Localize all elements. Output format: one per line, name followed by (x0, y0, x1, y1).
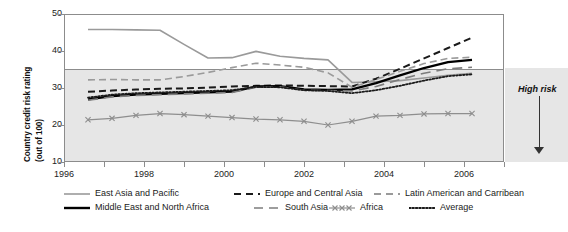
legend-label: Middle East and North Africa (95, 203, 209, 212)
legend-item-east-asia-and-pacific[interactable]: East Asia and Pacific (64, 186, 179, 201)
legend-item-europe-and-central-asia[interactable]: Europe and Central Asia (234, 186, 363, 201)
legend-swatch-icon (234, 189, 260, 199)
legend-swatch-icon (374, 189, 400, 199)
legend-label: Average (440, 203, 473, 212)
legend-item-latin-american-and-carribean[interactable]: Latin American and Carribean (374, 186, 524, 201)
legend-item-middle-east-and-north-africa[interactable]: Middle East and North Africa (64, 200, 209, 215)
chart-legend: East Asia and PacificEurope and Central … (64, 186, 534, 220)
high-risk-arrow-head (534, 147, 544, 154)
series-line-east-asia-and-pacific (88, 30, 472, 83)
high-risk-label: High risk (518, 84, 557, 94)
series-line-south-asia (88, 67, 472, 100)
high-risk-arrow-line (539, 96, 540, 148)
legend-swatch-icon (254, 203, 280, 213)
legend-row-1: East Asia and PacificEurope and Central … (64, 186, 534, 201)
legend-swatch-icon (409, 203, 435, 213)
legend-label: Europe and Central Asia (265, 189, 363, 198)
legend-item-south-asia[interactable]: South Asia (254, 200, 328, 215)
chart-root: Country credit risk rating (out of 100) … (0, 0, 568, 232)
legend-label: Africa (360, 203, 383, 212)
series-markers-africa (85, 111, 474, 128)
legend-item-average[interactable]: Average (409, 200, 473, 215)
legend-swatch-icon (64, 189, 90, 199)
legend-row-2: Middle East and North AfricaSouth AsiaAf… (64, 200, 534, 215)
legend-swatch-icon (329, 203, 355, 213)
legend-swatch-icon (64, 203, 90, 213)
legend-label: South Asia (285, 203, 328, 212)
legend-label: Latin American and Carribean (405, 189, 524, 198)
legend-item-africa[interactable]: Africa (329, 200, 383, 215)
legend-label: East Asia and Pacific (95, 189, 179, 198)
